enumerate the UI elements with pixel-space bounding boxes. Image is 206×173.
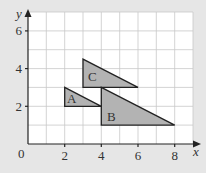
y-tick-label: 4 (16, 61, 23, 76)
x-tick-label: 4 (98, 148, 105, 163)
y-tick-label: 2 (16, 99, 23, 114)
coordinate-grid-diagram: A B C x y 0 2 4 6 8 2 4 6 (0, 0, 206, 173)
x-axis-label: x (192, 144, 199, 159)
origin-label: 0 (18, 146, 25, 161)
x-tick-label: 6 (135, 148, 142, 163)
shape-label-b: B (107, 109, 116, 124)
shape-label-c: C (88, 69, 97, 84)
y-tick-label: 6 (16, 23, 23, 38)
shape-label-a: A (67, 91, 77, 106)
x-tick-label: 8 (171, 148, 178, 163)
y-axis-label: y (14, 6, 22, 21)
x-tick-label: 2 (61, 148, 68, 163)
